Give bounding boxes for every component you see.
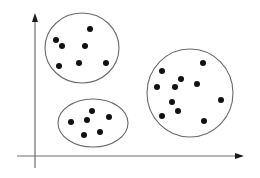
data-point bbox=[87, 26, 93, 32]
data-point bbox=[218, 97, 224, 103]
x-axis-arrow-icon bbox=[235, 153, 244, 159]
data-point bbox=[159, 68, 165, 74]
data-point bbox=[103, 60, 109, 66]
data-point bbox=[172, 84, 178, 90]
data-point bbox=[97, 129, 103, 135]
data-point bbox=[106, 114, 112, 120]
cluster-top-left bbox=[45, 13, 119, 83]
cluster-right bbox=[147, 49, 233, 137]
data-point bbox=[81, 132, 87, 138]
data-point bbox=[175, 108, 181, 114]
clusters bbox=[45, 13, 233, 147]
data-point bbox=[154, 84, 160, 90]
data-point bbox=[89, 108, 95, 114]
data-point bbox=[178, 76, 184, 82]
data-point bbox=[84, 117, 90, 123]
data-point bbox=[53, 37, 59, 43]
cluster-boundary bbox=[45, 13, 119, 83]
data-point bbox=[159, 113, 165, 119]
cluster-boundary bbox=[147, 49, 233, 137]
data-point bbox=[194, 81, 200, 87]
data-point bbox=[56, 63, 62, 69]
cluster-diagram bbox=[0, 0, 260, 178]
cluster-bottom-left bbox=[58, 99, 128, 147]
data-point bbox=[200, 60, 206, 66]
data-point bbox=[68, 119, 74, 125]
data-point bbox=[59, 43, 65, 49]
axes bbox=[17, 13, 244, 168]
data-point bbox=[76, 60, 82, 66]
data-point bbox=[201, 118, 207, 124]
data-point bbox=[169, 99, 175, 105]
y-axis-arrow-icon bbox=[32, 13, 38, 22]
data-point bbox=[82, 43, 88, 49]
